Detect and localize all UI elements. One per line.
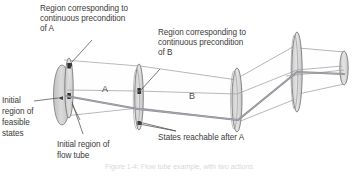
label-initial-feasible-line1: Initial: [2, 96, 21, 106]
label-initial-feasible-line3: feasible: [2, 118, 30, 128]
label-initial-flowtube-line2: flow tube: [57, 151, 89, 161]
label-precondition-a-line2: continuous precondition: [40, 14, 125, 24]
label-precondition-b-line3: of B: [158, 48, 172, 58]
label-initial-flowtube-line1: Initial region of: [57, 140, 109, 150]
tube-body-c: [238, 44, 298, 122]
cross-section-after-a: [133, 64, 143, 130]
figure-container: Region corresponding to continuous preco…: [0, 0, 358, 177]
cross-section-third: [231, 68, 242, 132]
figure-caption: Figure 1-4: Flow tube example, with two …: [0, 163, 358, 177]
label-precondition-b-line2: continuous precondition: [158, 38, 243, 48]
label-initial-feasible-line4: states: [2, 129, 24, 139]
cross-section-end: [340, 51, 348, 85]
label-initial-feasible-line2: region of: [2, 107, 33, 117]
label-precondition-a-line3: of A: [40, 24, 54, 34]
label-precondition-a-line1: Region corresponding to: [40, 4, 128, 14]
label-action-a: A: [102, 84, 108, 94]
label-precondition-b-line1: Region corresponding to: [158, 28, 246, 38]
label-states-reachable-after-a: States reachable after A: [158, 133, 244, 143]
label-action-b: B: [189, 91, 195, 101]
